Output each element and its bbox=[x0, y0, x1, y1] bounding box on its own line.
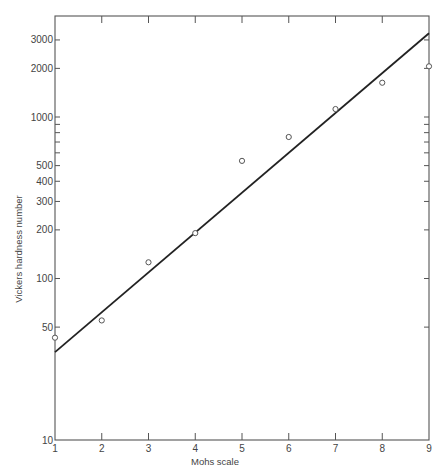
x-axis-ticks: 123456789 bbox=[52, 16, 432, 454]
x-tick-label: 1 bbox=[52, 443, 58, 454]
x-tick-label: 8 bbox=[379, 443, 385, 454]
regression-line bbox=[55, 33, 429, 352]
y-tick-label: 100 bbox=[36, 273, 53, 284]
data-point-marker bbox=[52, 335, 57, 340]
data-point-marker bbox=[286, 134, 291, 139]
y-axis-title: Vickers hardness number bbox=[13, 195, 24, 303]
x-tick-label: 3 bbox=[146, 443, 152, 454]
data-point-marker bbox=[193, 231, 198, 236]
plot-frame bbox=[55, 16, 429, 440]
y-tick-label: 50 bbox=[42, 322, 54, 333]
y-tick-label: 1000 bbox=[31, 112, 54, 123]
data-point-marker bbox=[146, 260, 151, 265]
data-point-marker bbox=[426, 64, 431, 69]
plot-border bbox=[55, 16, 429, 440]
data-points bbox=[52, 64, 431, 341]
data-point-marker bbox=[239, 158, 244, 163]
x-tick-label: 5 bbox=[239, 443, 245, 454]
x-tick-label: 7 bbox=[333, 443, 339, 454]
y-tick-label: 500 bbox=[36, 160, 53, 171]
y-tick-label: 2000 bbox=[31, 63, 54, 74]
x-tick-label: 6 bbox=[286, 443, 292, 454]
data-point-marker bbox=[333, 106, 338, 111]
x-tick-label: 9 bbox=[426, 443, 432, 454]
hardness-chart: 1050100200300400500100020003000 12345678… bbox=[0, 0, 442, 474]
fit-line bbox=[55, 33, 429, 352]
y-tick-label: 300 bbox=[36, 196, 53, 207]
x-tick-label: 4 bbox=[192, 443, 198, 454]
y-axis-ticks: 1050100200300400500100020003000 bbox=[31, 34, 429, 445]
y-tick-label: 400 bbox=[36, 176, 53, 187]
y-tick-label: 200 bbox=[36, 224, 53, 235]
data-point-marker bbox=[99, 318, 104, 323]
x-axis-title: Mohs scale bbox=[191, 456, 239, 467]
x-tick-label: 2 bbox=[99, 443, 105, 454]
data-point-marker bbox=[380, 80, 385, 85]
y-tick-label: 3000 bbox=[31, 34, 54, 45]
